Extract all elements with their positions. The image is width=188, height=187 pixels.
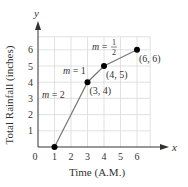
y-tick-label: 4: [28, 77, 33, 88]
x-tick-label: 3: [85, 151, 90, 162]
x-tick-label: 0: [33, 151, 38, 162]
y-tick-label: 1: [28, 125, 33, 136]
x-tick-label: 5: [118, 151, 123, 162]
x-axis-label: Time (A.M.): [69, 166, 125, 179]
x-axis-arrow-icon: [160, 144, 169, 150]
y-tick-label: 5: [28, 61, 33, 72]
y-tick-label: 6: [28, 44, 33, 55]
slope-label: m = 1: [63, 65, 86, 76]
data-point-label: (6, 6): [139, 53, 161, 65]
tick-labels: 0123456123456: [28, 44, 140, 162]
y-axis-arrow-icon: [35, 21, 41, 30]
x-axis-variable: x: [171, 141, 177, 153]
y-tick-label: 3: [28, 93, 33, 104]
data-point-label: (3, 4): [90, 85, 112, 97]
rainfall-chart: x y 0123456123456 Time (A.M.) Total Rain…: [0, 0, 188, 187]
x-tick-label: 6: [135, 151, 140, 162]
slope-label: m =: [92, 41, 108, 52]
x-tick-label: 1: [52, 151, 57, 162]
x-tick-label: 2: [69, 151, 74, 162]
data-point-label: (4, 5): [106, 69, 128, 81]
slope-numerator: 1: [112, 38, 116, 47]
slope-label: m = 2: [42, 89, 65, 100]
y-axis-variable: y: [33, 7, 39, 19]
y-axis-label: Total Rainfall (inches): [3, 45, 16, 144]
data-point: [52, 144, 58, 150]
x-tick-label: 4: [102, 151, 107, 162]
slope-denominator: 2: [112, 48, 116, 57]
y-tick-label: 2: [28, 109, 33, 120]
